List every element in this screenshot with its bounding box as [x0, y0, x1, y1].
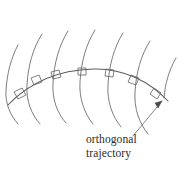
- caption-line-orthogonal: orthogonal: [86, 133, 186, 147]
- caption-label: orthogonal trajectory: [86, 133, 186, 160]
- orthogonal-trajectory-curve: [8, 69, 168, 105]
- caption-line-trajectory: trajectory: [86, 147, 186, 161]
- family-curve-4: [80, 30, 95, 124]
- family-of-curves-group: [6, 30, 176, 134]
- family-curve-6: [135, 41, 150, 134]
- orthogonal-trajectory-figure: orthogonal trajectory: [0, 0, 187, 173]
- family-curve-5: [108, 33, 123, 127]
- arrow-head-icon: [155, 101, 162, 108]
- family-curve-7: [164, 58, 176, 98]
- caption-leader-group: [133, 101, 162, 136]
- family-curve-1: [6, 45, 18, 124]
- family-curve-2: [27, 34, 42, 124]
- orthogonal-trajectory-group: [8, 69, 168, 105]
